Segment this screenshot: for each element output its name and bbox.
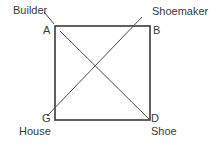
vertex-D: D <box>151 112 159 124</box>
vertex-B: B <box>153 24 160 36</box>
vertex-G: G <box>42 112 51 124</box>
label-house: House <box>19 125 51 137</box>
label-builder: Builder <box>13 4 48 16</box>
vertex-A: A <box>43 24 51 36</box>
label-shoe: Shoe <box>151 125 177 137</box>
proportion-square-diagram: Builder Shoemaker House Shoe A B G D <box>0 0 221 145</box>
diagonal-A-D <box>60 31 150 120</box>
label-shoemaker: Shoemaker <box>152 5 209 17</box>
